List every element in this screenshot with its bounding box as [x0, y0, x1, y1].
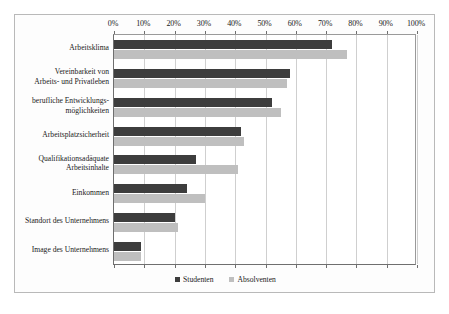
category-label-line: Standort des Unternehmens	[15, 216, 109, 226]
x-axis-tick-label: 50%	[257, 19, 271, 28]
legend-label: Absolventen	[237, 275, 275, 284]
bar-absolventen	[114, 137, 244, 146]
x-axis-tick-label: 90%	[379, 19, 393, 28]
category-label-line: möglichkeiten	[15, 106, 109, 116]
x-axis-tick-label: 100%	[407, 19, 425, 28]
axis-tickmark	[114, 265, 115, 268]
axis-tickmark	[235, 31, 236, 34]
category-label-line: Image des Unternehmens	[15, 245, 109, 255]
category-label: Vereinbarkeit vonArbeits- und Privatlebe…	[15, 67, 109, 86]
axis-tickmark	[235, 265, 236, 268]
legend-item-absolventen[interactable]: Absolventen	[229, 275, 275, 284]
x-axis-tick-label: 30%	[197, 19, 211, 28]
bar-absolventen	[114, 223, 178, 232]
category-label: Arbeitsplatzsicherheit	[15, 130, 109, 140]
chart-legend: StudentenAbsolventen	[15, 271, 436, 287]
bar-absolventen	[114, 79, 287, 88]
bar-studenten	[114, 98, 272, 107]
category-label-line: Einkommen	[15, 188, 109, 198]
axis-tickmark	[417, 31, 418, 34]
axis-tickmark	[175, 31, 176, 34]
legend-swatch-icon	[229, 277, 234, 282]
bar-group	[114, 213, 415, 232]
category-label-line: Arbeitsinhalte	[15, 163, 109, 173]
axis-tickmark	[296, 265, 297, 268]
category-label: QualifikationsadäquateArbeitsinhalte	[15, 154, 109, 173]
category-label-line: Qualifikationsadäquate	[15, 154, 109, 164]
category-label-line: Vereinbarkeit von	[15, 67, 109, 77]
bar-studenten	[114, 40, 332, 49]
x-axis-tick-labels: 0%10%20%30%40%50%60%70%80%90%100%	[15, 19, 436, 33]
legend-swatch-icon	[175, 277, 180, 282]
x-axis-tick-label: 60%	[288, 19, 302, 28]
category-label-line: Arbeits- und Privatleben	[15, 77, 109, 87]
bar-absolventen	[114, 252, 141, 261]
bar-studenten	[114, 213, 175, 222]
axis-tickmark	[175, 265, 176, 268]
axis-tickmark	[205, 265, 206, 268]
bar-studenten	[114, 184, 187, 193]
gridline	[417, 35, 418, 264]
axis-tickmark	[266, 265, 267, 268]
axis-tickmark	[326, 31, 327, 34]
axis-tickmark	[326, 265, 327, 268]
axis-tickmark	[144, 31, 145, 34]
axis-tickmark	[114, 31, 115, 34]
bar-studenten	[114, 155, 196, 164]
legend-label: Studenten	[183, 275, 213, 284]
bar-absolventen	[114, 108, 281, 117]
category-label: berufliche Entwicklungs-möglichkeiten	[15, 96, 109, 115]
bar-group	[114, 69, 415, 88]
x-axis-tick-label: 80%	[348, 19, 362, 28]
category-label: Standort des Unternehmens	[15, 216, 109, 226]
category-label-line: berufliche Entwicklungs-	[15, 96, 109, 106]
bar-group	[114, 242, 415, 261]
category-label: Einkommen	[15, 188, 109, 198]
axis-tickmark	[356, 31, 357, 34]
bar-absolventen	[114, 50, 347, 59]
bar-absolventen	[114, 165, 238, 174]
plot-area	[113, 34, 416, 265]
axis-tickmark	[205, 31, 206, 34]
x-axis-tick-label: 40%	[227, 19, 241, 28]
x-axis-tick-label: 10%	[136, 19, 150, 28]
x-axis-tick-label: 70%	[318, 19, 332, 28]
bar-chart-figure: 0%10%20%30%40%50%60%70%80%90%100% Arbeit…	[14, 14, 435, 293]
bar-group	[114, 155, 415, 174]
axis-tickmark	[387, 31, 388, 34]
x-axis-tick-label: 20%	[167, 19, 181, 28]
category-label: Image des Unternehmens	[15, 245, 109, 255]
legend-item-studenten[interactable]: Studenten	[175, 275, 213, 284]
bar-group	[114, 40, 415, 59]
bar-group	[114, 127, 415, 146]
bar-studenten	[114, 242, 141, 251]
axis-tickmark	[387, 265, 388, 268]
category-label-line: Arbeitsplatzsicherheit	[15, 130, 109, 140]
bar-studenten	[114, 127, 241, 136]
axis-tickmark	[266, 31, 267, 34]
category-label-line: Arbeitsklima	[15, 43, 109, 53]
category-label: Arbeitsklima	[15, 43, 109, 53]
bar-group	[114, 98, 415, 117]
axis-tickmark	[296, 31, 297, 34]
axis-tickmark	[417, 265, 418, 268]
axis-tickmark	[356, 265, 357, 268]
bar-group	[114, 184, 415, 203]
x-axis-tick-label: 0%	[108, 19, 118, 28]
y-axis-category-labels: ArbeitsklimaVereinbarkeit vonArbeits- un…	[15, 34, 111, 265]
bar-absolventen	[114, 194, 205, 203]
bar-studenten	[114, 69, 290, 78]
axis-tickmark	[144, 265, 145, 268]
